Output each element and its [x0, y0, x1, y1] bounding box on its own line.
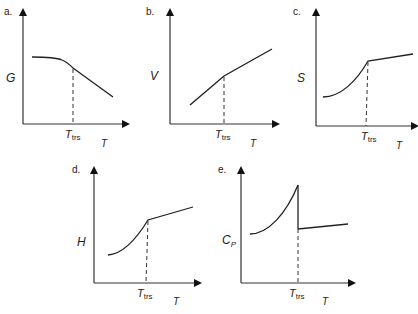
ttrs-label-d: Ttrs — [137, 287, 153, 301]
x-label-b: T — [250, 138, 256, 149]
curve-cp-low — [250, 185, 298, 234]
panel-e — [241, 170, 352, 283]
x-label-a: T — [101, 138, 107, 149]
phase-transition-diagram — [0, 0, 418, 314]
transition-line-c — [366, 62, 368, 126]
ttrs-label-c: Ttrs — [361, 130, 377, 144]
y-label-v: V — [150, 69, 158, 83]
y-label-h: H — [77, 235, 86, 249]
y-label-g: G — [6, 71, 15, 85]
panel-letter-d: d. — [72, 164, 80, 175]
curve-s — [323, 54, 413, 97]
curve-h — [108, 207, 193, 255]
y-label-s: S — [297, 71, 305, 85]
panel-b — [170, 12, 276, 124]
panel-letter-e: e. — [218, 164, 226, 175]
y-label-cp: CP — [222, 233, 236, 249]
panel-c — [316, 12, 415, 126]
ttrs-label-e: Ttrs — [289, 287, 305, 301]
curve-cp-high — [298, 224, 348, 229]
panel-a — [23, 12, 126, 124]
panel-letter-b: b. — [146, 6, 154, 17]
x-label-e: T — [322, 296, 328, 307]
panel-letter-a: a. — [4, 6, 12, 17]
panel-letter-c: c. — [293, 6, 301, 17]
ttrs-label-a: Ttrs — [65, 128, 81, 142]
x-label-d: T — [173, 296, 179, 307]
x-label-c: T — [396, 140, 402, 151]
panel-d — [94, 170, 198, 283]
curve-v — [190, 49, 272, 105]
ttrs-label-b: Ttrs — [215, 128, 231, 142]
transition-line-d — [146, 221, 148, 283]
